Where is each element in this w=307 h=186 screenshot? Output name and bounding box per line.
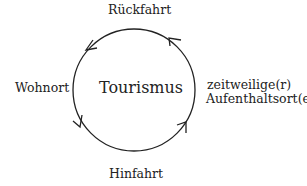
label-hinfahrt: Hinfahrt — [109, 168, 163, 181]
label-wohnort: Wohnort — [15, 82, 69, 95]
arrow-upper-left-icon — [86, 40, 97, 50]
label-aufenthaltsort-line2: Aufenthaltsort(e) — [206, 93, 307, 106]
arrow-lower-left-icon — [73, 115, 82, 127]
tourism-cycle-diagram: Rückfahrt Wohnort Tourismus zeitweilige(… — [0, 0, 307, 186]
label-aufenthaltsort-line1: zeitweilige(r) — [207, 79, 291, 92]
label-rueckfahrt: Rückfahrt — [108, 4, 171, 17]
label-tourismus: Tourismus — [99, 80, 183, 96]
